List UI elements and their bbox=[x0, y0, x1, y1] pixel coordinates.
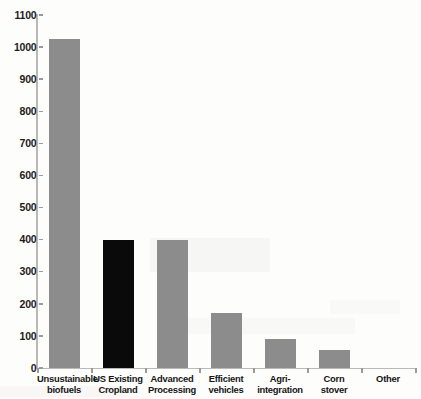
x-tick-mark bbox=[415, 368, 417, 373]
bar-2 bbox=[103, 240, 134, 368]
x-axis-label-line: Efficient bbox=[199, 374, 253, 385]
y-tick-mark bbox=[39, 14, 43, 16]
y-tick-mark bbox=[39, 367, 43, 369]
y-tick-mark bbox=[39, 46, 43, 48]
bar-1 bbox=[49, 39, 80, 368]
x-axis-label-7: Other bbox=[361, 374, 415, 385]
y-axis-line bbox=[36, 14, 38, 369]
y-tick-label: 200 bbox=[20, 298, 37, 309]
y-tick-mark bbox=[39, 175, 43, 177]
bar-chart: 010020030040050060070080090010001100 Uns… bbox=[0, 0, 421, 399]
x-tick-mark bbox=[145, 368, 147, 373]
bar-5 bbox=[265, 339, 296, 368]
bar-4 bbox=[211, 313, 242, 368]
x-axis-label-line: Other bbox=[361, 374, 415, 385]
y-tick-label: 900 bbox=[20, 73, 37, 84]
y-tick-label: 600 bbox=[20, 170, 37, 181]
x-axis-label-4: Efficientvehicles bbox=[199, 374, 253, 395]
x-axis-label-5: Agri-integration bbox=[253, 374, 307, 395]
plot-area: 010020030040050060070080090010001100 Uns… bbox=[0, 0, 421, 399]
y-tick-label: 300 bbox=[20, 266, 37, 277]
x-axis-label-line: Cropland bbox=[91, 385, 145, 396]
y-tick-label: 1000 bbox=[14, 41, 37, 52]
y-tick-label: 1100 bbox=[15, 9, 37, 20]
y-tick-mark bbox=[39, 335, 43, 337]
y-tick-mark bbox=[39, 207, 43, 209]
x-axis-label-line: Advanced bbox=[145, 374, 199, 385]
y-tick-label: 500 bbox=[20, 202, 37, 213]
x-axis-label-line: stover bbox=[307, 385, 361, 396]
y-tick-mark bbox=[39, 271, 43, 273]
y-tick-mark bbox=[39, 303, 43, 305]
y-tick-mark bbox=[39, 111, 43, 113]
x-axis-label-line: Processing bbox=[145, 385, 199, 396]
y-tick-label: 700 bbox=[20, 138, 37, 149]
y-tick-label: 800 bbox=[20, 106, 37, 117]
bar-6 bbox=[319, 350, 350, 368]
y-tick-label: 0 bbox=[31, 362, 37, 373]
x-axis-label-line: Corn bbox=[307, 374, 361, 385]
x-tick-mark bbox=[199, 368, 201, 373]
bar-3 bbox=[157, 240, 188, 368]
x-axis-label-line: Agri- bbox=[253, 374, 307, 385]
x-axis-label-line: Unsustainable bbox=[37, 374, 91, 385]
x-axis-label-line: US Existing bbox=[91, 374, 145, 385]
x-axis-label-1: Unsustainablebiofuels bbox=[37, 374, 91, 395]
x-tick-mark bbox=[361, 368, 363, 373]
x-axis-label-2: US ExistingCropland bbox=[91, 374, 145, 395]
x-axis-label-line: integration bbox=[253, 385, 307, 396]
x-tick-mark bbox=[253, 368, 255, 373]
y-tick-label: 100 bbox=[20, 330, 37, 341]
y-tick-label: 400 bbox=[20, 234, 37, 245]
y-tick-mark bbox=[39, 78, 43, 80]
y-tick-mark bbox=[39, 143, 43, 145]
x-tick-mark bbox=[307, 368, 309, 373]
x-axis-label-line: vehicles bbox=[199, 385, 253, 396]
x-axis-label-line: biofuels bbox=[37, 385, 91, 396]
x-axis-label-3: AdvancedProcessing bbox=[145, 374, 199, 395]
y-tick-mark bbox=[39, 239, 43, 241]
x-axis-label-6: Cornstover bbox=[307, 374, 361, 395]
